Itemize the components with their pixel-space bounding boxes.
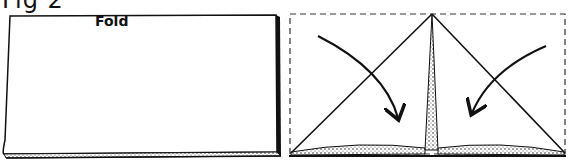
folded-triangle [289, 14, 566, 156]
left-panel-sheet [3, 15, 281, 158]
fold-arrow-left-icon [318, 36, 398, 118]
fold-arrow-right-icon [472, 46, 546, 113]
diagram-canvas [0, 0, 568, 161]
fold-label: Fold [95, 13, 128, 29]
